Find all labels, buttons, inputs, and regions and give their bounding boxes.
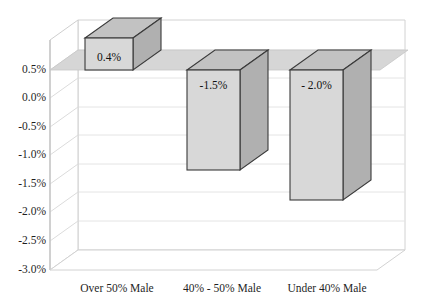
bar-group-under-40-male[interactable] xyxy=(290,50,371,200)
bar-side-face xyxy=(343,50,371,200)
ytick-label-1: 0.0% xyxy=(2,92,46,104)
bar-group-40-50-male[interactable] xyxy=(187,50,268,170)
ytick-label-2: -0.5% xyxy=(2,121,46,133)
xtick-label-40-50-male: 40% - 50% Male xyxy=(163,283,281,295)
bar-value-label-40-50-male: -1.5% xyxy=(187,80,240,92)
bar-side-face xyxy=(240,50,268,170)
chart-canvas xyxy=(0,0,436,308)
chart-container: 0.5% 0.0% -0.5% -1.0% -1.5% -2.0% -2.5% … xyxy=(0,0,436,308)
xtick-label-over-50-male: Over 50% Male xyxy=(62,283,172,295)
ytick-label-0: 0.5% xyxy=(2,64,46,76)
xtick-label-under-40-male: Under 40% Male xyxy=(268,283,386,295)
bar-value-label-over-50-male: 0.4% xyxy=(85,52,133,64)
chart-base-floor xyxy=(50,250,405,270)
ytick-label-3: -1.0% xyxy=(2,149,46,161)
ytick-label-7: -3.0% xyxy=(2,264,46,276)
ytick-label-5: -2.0% xyxy=(2,206,46,218)
ytick-label-4: -1.5% xyxy=(2,178,46,190)
bar-value-label-under-40-male: - 2.0% xyxy=(290,80,343,92)
ytick-label-6: -2.5% xyxy=(2,235,46,247)
